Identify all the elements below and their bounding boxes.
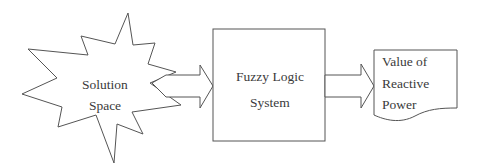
solution-space-label: Solution Space	[73, 74, 137, 116]
label-line: Value of	[382, 51, 458, 73]
label-line: Reactive	[382, 73, 458, 95]
fuzzy-logic-system-label: Fuzzy Logic System	[228, 64, 312, 116]
reactive-power-label: Value of Reactive Power	[382, 51, 458, 116]
label-line: Power	[382, 94, 458, 116]
label-line: Fuzzy Logic	[228, 64, 312, 90]
label-line: System	[228, 90, 312, 116]
arrow-to-reactive-power	[325, 64, 374, 108]
label-line: Solution	[73, 74, 137, 95]
label-line: Space	[73, 95, 137, 116]
